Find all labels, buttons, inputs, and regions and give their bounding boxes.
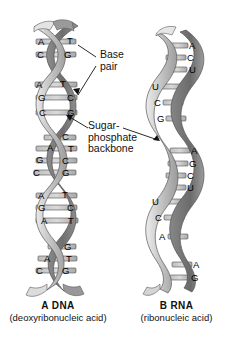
rna-base: C: [187, 53, 194, 63]
dna-base-left: C: [36, 266, 43, 276]
rna-base: U: [189, 65, 196, 75]
rna-base: A: [193, 260, 199, 270]
dna-base-right: G: [64, 50, 71, 60]
sugar-phosphate-line3: backbone: [88, 143, 137, 155]
dna-base-left: A: [41, 216, 47, 226]
rna-base: G: [191, 273, 198, 283]
dna-base-left: C: [39, 108, 46, 118]
rna-strand-front: [146, 34, 178, 293]
rna-base: A: [189, 41, 195, 51]
sugar-phosphate-callout: Sugar- phosphate backbone: [88, 120, 137, 155]
dna-base-right: G: [67, 108, 74, 118]
sugar-phosphate-line1: Sugar-: [88, 120, 137, 132]
dna-base-right: T: [68, 144, 74, 154]
dna-base-left: A: [44, 254, 50, 264]
dna-base-right: C: [62, 132, 69, 142]
rna-ribbon-bottom: [143, 284, 160, 295]
dna-caption: A DNA (deoxyribonucleic acid): [0, 300, 116, 324]
dna-base-left: G: [36, 155, 43, 165]
dna-base-right: C: [67, 203, 74, 213]
dna-base-left: A: [47, 143, 53, 153]
dna-base-right: T: [60, 79, 66, 89]
dna-base-left: G: [38, 203, 45, 213]
rna-base: A: [191, 146, 197, 156]
dna-caption-title: A DNA: [0, 300, 116, 312]
dna-base-right: T: [68, 216, 74, 226]
rna-caption-subtitle: (ribonucleic acid): [120, 312, 233, 324]
base-pair-leader-lower: [78, 66, 96, 95]
base-pair-callout-line1: Base: [100, 49, 124, 61]
dna-base-right: C: [62, 156, 69, 166]
rna-base: U: [187, 183, 194, 193]
base-pair-leader-upper: [78, 45, 96, 57]
rna-base: C: [187, 171, 194, 181]
base-pair-callout-line2: pair: [100, 61, 124, 73]
dna-ribbon-bottom-back: [63, 284, 84, 296]
dna-base-right: G: [64, 242, 71, 252]
dna-ribbon-bottom-front: [26, 284, 47, 296]
rna-caption-title: B RNA: [120, 300, 233, 312]
rna-base: G: [157, 114, 164, 124]
dna-base-right: T: [62, 190, 68, 200]
dna-base-left: A: [38, 191, 44, 201]
dna-base-left: A: [38, 37, 44, 47]
dna-base-left: C: [37, 50, 44, 60]
base-pair-callout: Base pair: [100, 49, 124, 72]
rna-base: C: [155, 213, 162, 223]
dna-base-left: G: [38, 93, 45, 103]
dna-rna-figure: A T C G A T G C C G C A T G C C G A T G …: [0, 0, 233, 338]
dna-base-right: G: [62, 168, 69, 178]
dna-base-left: A: [36, 80, 42, 90]
rna-base: U: [152, 197, 159, 207]
rna-caption: B RNA (ribonucleic acid): [120, 300, 233, 324]
dna-helix: [26, 20, 84, 297]
dna-base-right: G: [62, 266, 69, 276]
dna-base-left: C: [33, 168, 40, 178]
rna-base: U: [152, 82, 159, 92]
dna-base-right: T: [66, 254, 72, 264]
dna-caption-subtitle: (deoxyribonucleic acid): [0, 312, 116, 324]
rna-base: A: [159, 232, 165, 242]
dna-base-right: C: [67, 93, 74, 103]
dna-base-right: T: [67, 36, 73, 46]
rna-base: C: [154, 98, 161, 108]
rna-base: G: [189, 159, 196, 169]
